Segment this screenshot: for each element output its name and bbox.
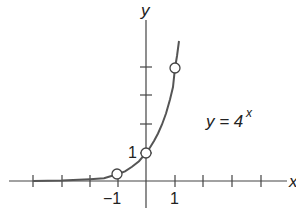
point-0	[141, 148, 151, 158]
y-axis-label: y	[140, 1, 151, 20]
x-tick-label-1: 1	[170, 190, 179, 207]
curve-4-to-the-x	[33, 41, 179, 181]
point-neg1	[112, 169, 122, 179]
equation-exponent: x	[245, 106, 253, 120]
x-axis-label: x	[288, 172, 296, 191]
equation-label: y = 4	[205, 112, 243, 131]
y-tick-label-1: 1	[128, 144, 137, 161]
point-1	[170, 63, 180, 73]
exponential-graph: y x −1 1 1 y = 4 x	[0, 0, 296, 208]
x-tick-label-neg1: −1	[103, 190, 121, 207]
